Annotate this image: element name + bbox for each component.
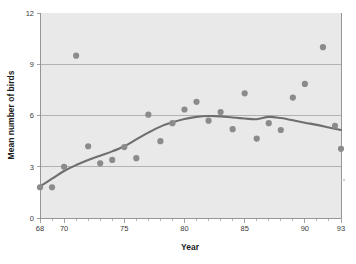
y-tick-label-3: 3 — [30, 163, 34, 172]
data-point — [278, 127, 284, 133]
data-point — [121, 144, 127, 150]
y-axis-title: Mean number of birds — [6, 70, 16, 159]
data-point — [230, 126, 236, 132]
stray-artifact-mark — [343, 179, 345, 181]
x-axis-title: Year — [181, 242, 200, 252]
data-point — [73, 53, 79, 59]
data-point — [332, 123, 338, 129]
data-point — [266, 120, 272, 126]
x-tick-label-80: 80 — [180, 224, 188, 233]
x-tick-label-85: 85 — [241, 224, 249, 233]
data-point — [37, 184, 43, 190]
data-point — [169, 120, 175, 126]
x-tick-label-93: 93 — [337, 224, 345, 233]
data-point — [218, 109, 224, 115]
y-tick-label-9: 9 — [30, 60, 34, 69]
x-tick-label-68: 68 — [36, 224, 44, 233]
data-point — [193, 99, 199, 105]
data-point — [97, 160, 103, 166]
data-point — [254, 135, 260, 141]
data-point — [49, 184, 55, 190]
data-point — [133, 155, 139, 161]
x-tick-label-75: 75 — [120, 224, 128, 233]
data-point — [302, 81, 308, 87]
bird-count-scatter-chart: 68707580859093 036912 Year Mean number o… — [0, 0, 356, 264]
data-point — [109, 157, 115, 163]
data-point — [320, 44, 326, 50]
data-point — [181, 106, 187, 112]
data-point — [290, 94, 296, 100]
data-point — [145, 112, 151, 118]
data-point — [85, 143, 91, 149]
data-point — [157, 138, 163, 144]
x-tick-label-70: 70 — [60, 224, 68, 233]
data-point — [205, 118, 211, 124]
data-point — [242, 90, 248, 96]
x-tick-label-90: 90 — [301, 224, 309, 233]
chart-container: 68707580859093 036912 Year Mean number o… — [0, 0, 356, 264]
y-tick-label-0: 0 — [30, 214, 34, 223]
data-point — [338, 146, 344, 152]
data-point — [61, 164, 67, 170]
y-tick-label-6: 6 — [30, 111, 34, 120]
y-tick-label-12: 12 — [26, 9, 34, 18]
